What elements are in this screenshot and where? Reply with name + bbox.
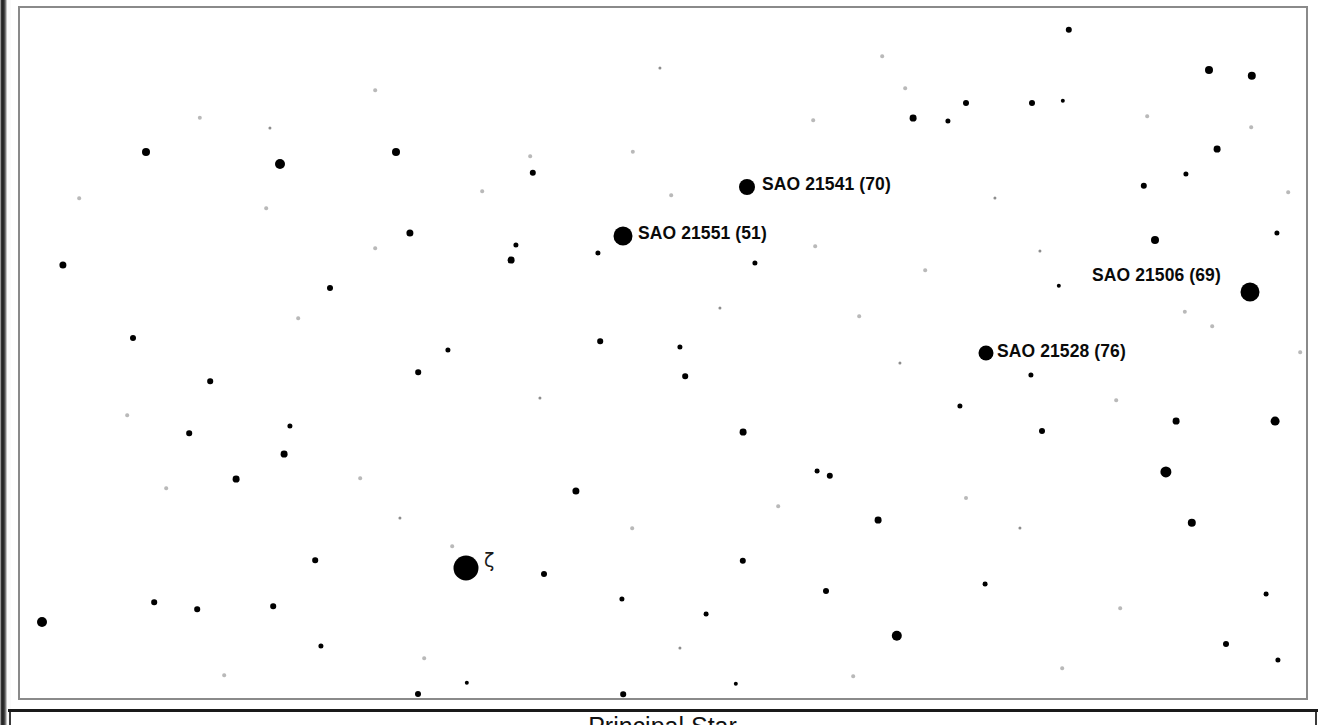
field-star (619, 596, 624, 601)
field-star (37, 617, 47, 627)
field-star (422, 656, 426, 660)
field-star (465, 681, 469, 685)
labeled-star-marker (739, 179, 755, 195)
field-star (963, 100, 969, 106)
field-star (207, 378, 213, 384)
star-chart-page: SAO 21541 (70)SAO 21551 (51)SAO 21506 (6… (0, 0, 1325, 725)
field-star (270, 603, 276, 609)
field-star (631, 150, 635, 154)
field-star (1173, 418, 1180, 425)
field-star (957, 403, 962, 408)
field-star (281, 451, 288, 458)
field-star (823, 588, 829, 594)
field-star (1248, 72, 1256, 80)
field-star (898, 361, 901, 364)
field-star (327, 285, 333, 291)
field-star (1060, 666, 1064, 670)
field-star (1114, 398, 1118, 402)
field-star (1145, 114, 1149, 118)
field-star (1286, 190, 1290, 194)
field-star (1151, 236, 1159, 244)
field-star (415, 369, 421, 375)
field-star (1028, 372, 1033, 377)
field-star (682, 373, 688, 379)
field-star (538, 396, 541, 399)
field-star (597, 338, 603, 344)
greek-labeled-star-marker (454, 556, 479, 581)
field-star (164, 486, 168, 490)
field-star (415, 691, 421, 697)
field-star (1188, 519, 1196, 527)
field-star (513, 242, 518, 247)
field-star (59, 261, 66, 268)
field-star (1118, 606, 1122, 610)
field-star (875, 517, 882, 524)
field-star (572, 487, 579, 494)
field-star (903, 86, 907, 90)
field-star (233, 476, 240, 483)
field-star (1223, 641, 1229, 647)
field-star (1029, 100, 1035, 106)
field-star (964, 496, 968, 500)
field-star (312, 557, 318, 563)
star-label: SAO 21551 (51) (638, 223, 767, 244)
field-star (677, 344, 682, 349)
field-star (1275, 657, 1280, 662)
field-star (398, 516, 401, 519)
field-star (620, 691, 626, 697)
field-star (704, 612, 709, 617)
field-star (450, 544, 454, 548)
field-star (892, 631, 902, 641)
caption: Principal Star (0, 714, 1325, 725)
field-star (857, 314, 861, 318)
field-star (1039, 428, 1045, 434)
field-star (752, 260, 757, 265)
field-star (658, 66, 661, 69)
field-star (983, 582, 988, 587)
star-label: SAO 21541 (70) (762, 174, 891, 195)
field-star (222, 673, 226, 677)
field-star (1018, 526, 1021, 529)
labeled-star-marker (1241, 283, 1260, 302)
caption-text: Principal Star (0, 714, 1325, 725)
field-star (358, 476, 362, 480)
field-star (508, 257, 515, 264)
field-star (827, 473, 833, 479)
field-star (541, 571, 547, 577)
field-star (1205, 66, 1213, 74)
field-star (813, 244, 817, 248)
field-star (880, 54, 884, 58)
star-label: SAO 21506 (69) (1092, 265, 1221, 286)
field-star (718, 306, 721, 309)
field-star (1274, 230, 1279, 235)
field-star (740, 429, 747, 436)
field-star (373, 88, 377, 92)
field-star (142, 148, 150, 156)
field-star (851, 674, 855, 678)
star-field: SAO 21541 (70)SAO 21551 (51)SAO 21506 (6… (20, 8, 1306, 698)
field-star (1141, 183, 1147, 189)
field-star (194, 606, 200, 612)
field-star (198, 116, 202, 120)
field-star (296, 316, 300, 320)
field-star (669, 193, 673, 197)
field-star (1183, 310, 1187, 314)
greek-star-label-zeta: ζ (484, 549, 494, 571)
field-star (1210, 324, 1214, 328)
scan-edge-left (0, 0, 7, 725)
field-star (130, 335, 136, 341)
star-label: SAO 21528 (76) (997, 341, 1126, 362)
labeled-star-marker (614, 227, 633, 246)
field-star (1183, 171, 1188, 176)
field-star (1066, 27, 1072, 33)
field-star (740, 558, 746, 564)
field-star (678, 646, 681, 649)
field-star (318, 643, 323, 648)
field-star (151, 599, 157, 605)
field-star (993, 196, 996, 199)
field-star (776, 504, 780, 508)
field-star (392, 148, 400, 156)
field-star (815, 469, 820, 474)
field-star (275, 159, 285, 169)
field-star (480, 189, 484, 193)
